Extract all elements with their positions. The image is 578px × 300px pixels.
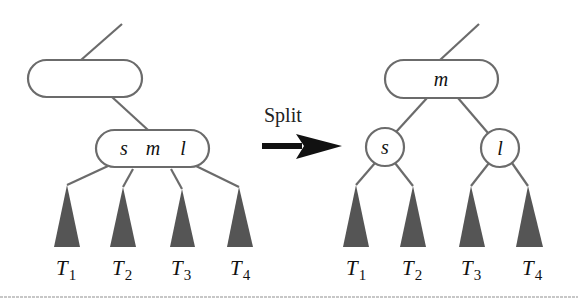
parent-node-empty bbox=[28, 60, 142, 97]
split-label: Split bbox=[264, 104, 302, 127]
edge-node-to-t1 bbox=[67, 166, 108, 185]
edge-s-to-t2 bbox=[395, 163, 413, 186]
subtree-t1-triangle bbox=[54, 185, 80, 247]
subtree-t2-triangle-after bbox=[400, 186, 426, 247]
edge-node-to-t3 bbox=[171, 169, 182, 189]
edge-to-root-left bbox=[81, 24, 122, 60]
subtree-t2-triangle bbox=[110, 187, 136, 247]
split-diagram: s m l T1 T2 T3 T4 Split m s l bbox=[0, 0, 578, 300]
subtree-t1-label-after: T1 bbox=[346, 256, 366, 283]
edge-m-to-s bbox=[396, 98, 427, 132]
subtree-t3-label-after: T3 bbox=[461, 256, 481, 283]
split-transition: Split bbox=[262, 104, 342, 159]
key-l: l bbox=[180, 137, 186, 159]
edge-node-to-t2 bbox=[123, 169, 133, 187]
subtree-t4-triangle bbox=[227, 187, 253, 247]
promoted-key-m: m bbox=[434, 68, 448, 90]
edge-to-root-right bbox=[440, 24, 479, 60]
after-tree: m s l T1 T2 T3 T4 bbox=[343, 24, 543, 283]
edge-l-to-t3 bbox=[471, 163, 489, 186]
edge-parent-to-node bbox=[112, 97, 148, 130]
subtree-t2-label: T2 bbox=[112, 256, 132, 283]
right-child-key-l: l bbox=[497, 137, 503, 159]
edge-s-to-t1 bbox=[356, 163, 375, 185]
key-m: m bbox=[146, 137, 160, 159]
edge-m-to-l bbox=[458, 98, 488, 133]
edge-l-to-t4 bbox=[512, 163, 528, 186]
subtree-t3-label: T3 bbox=[171, 256, 191, 283]
subtree-t3-triangle-after bbox=[459, 186, 485, 247]
subtree-t4-label-after: T4 bbox=[522, 256, 543, 283]
key-s: s bbox=[120, 137, 128, 159]
subtree-t1-triangle-after bbox=[343, 185, 369, 247]
subtree-t4-label: T4 bbox=[230, 256, 251, 283]
subtree-t2-label-after: T2 bbox=[402, 256, 422, 283]
before-tree: s m l T1 T2 T3 T4 bbox=[28, 24, 253, 283]
edge-node-to-t4 bbox=[196, 166, 239, 187]
subtree-t3-triangle bbox=[170, 189, 195, 247]
left-child-key-s: s bbox=[381, 136, 389, 158]
right-arrow-icon bbox=[262, 134, 342, 159]
subtree-t1-label: T1 bbox=[56, 256, 76, 283]
subtree-t4-triangle-after bbox=[516, 186, 543, 247]
